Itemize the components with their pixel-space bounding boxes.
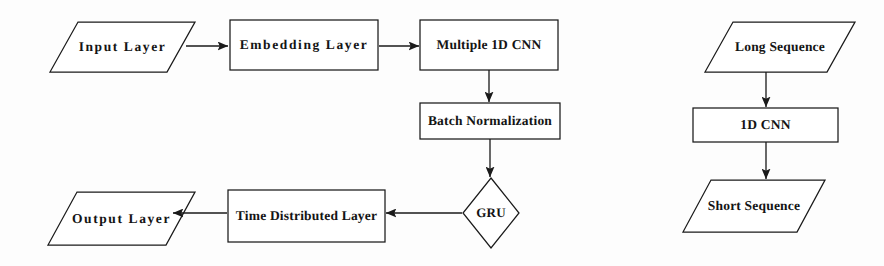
shape-input-layer[interactable] [50,22,195,72]
shape-output-layer[interactable] [48,192,195,245]
shape-time-distributed-layer[interactable] [228,190,385,242]
shape-batch-normalization[interactable] [420,103,560,139]
shape-multiple-1d-cnn[interactable] [420,20,558,70]
flowchart-vector-layer [0,0,884,266]
shape-one-d-cnn[interactable] [693,108,838,142]
shape-embedding-layer[interactable] [230,20,378,70]
flowchart-canvas: Input Layer Embedding Layer Multiple 1D … [0,0,884,266]
shape-long-sequence[interactable] [705,22,855,72]
shape-gru[interactable] [463,178,519,248]
shape-short-sequence[interactable] [683,180,825,232]
